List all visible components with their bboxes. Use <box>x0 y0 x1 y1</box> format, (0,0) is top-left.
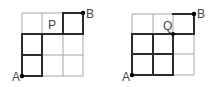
point-b-dot <box>81 11 85 15</box>
label-b: B <box>86 7 94 21</box>
grid-q: A B Q <box>122 7 205 84</box>
label-b: B <box>197 7 205 21</box>
point-a-dot <box>130 73 134 77</box>
label-p: P <box>48 18 56 32</box>
label-a: A <box>122 70 130 84</box>
grid-p: A B P <box>12 7 94 84</box>
point-a-dot <box>20 74 24 78</box>
label-a: A <box>12 70 20 84</box>
point-b-dot <box>192 12 196 16</box>
label-q: Q <box>163 19 172 33</box>
grid-diagrams: A B P A B Q <box>0 0 216 87</box>
